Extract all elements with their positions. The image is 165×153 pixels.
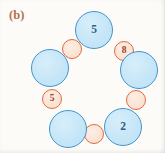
circle-node-label: 8: [122, 46, 127, 56]
circle-node-big-bottom-left: [49, 110, 87, 148]
circle-node-label: 5: [91, 24, 97, 36]
circle-node-small-bottom: [84, 124, 104, 144]
circle-node-big-bottom-right: 2: [104, 108, 142, 146]
circle-node-label: 2: [120, 121, 126, 133]
figure-panel: (b) 5825: [0, 0, 165, 153]
circle-node-label: 5: [50, 94, 55, 104]
circle-ring: 5825: [0, 0, 165, 153]
circle-node-small-lower-left: 5: [42, 89, 62, 109]
circle-node-small-lower-right: [126, 90, 146, 110]
circle-node-big-right: [120, 51, 158, 89]
circle-node-small-upper-left: [62, 39, 82, 59]
